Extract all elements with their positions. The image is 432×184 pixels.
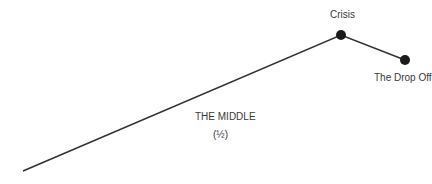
crisis-label: Crisis bbox=[330, 9, 355, 20]
middle-label: THE MIDDLE bbox=[195, 111, 256, 122]
middle-fraction-label: (½) bbox=[213, 129, 228, 140]
drop-off-marker bbox=[400, 55, 410, 65]
story-arc-line bbox=[23, 35, 405, 171]
drop-off-label: The Drop Off bbox=[374, 72, 432, 83]
crisis-marker bbox=[336, 30, 346, 40]
